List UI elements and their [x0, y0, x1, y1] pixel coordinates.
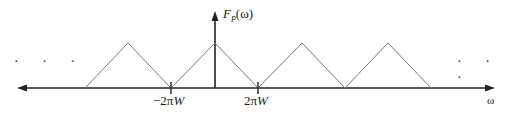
ellipsis-left: · · ·	[14, 54, 85, 70]
tick-label-var: W	[173, 93, 184, 108]
left-arrowhead-icon	[17, 85, 27, 92]
function-argument: (ω)	[236, 6, 253, 21]
tick-label-var: W	[257, 93, 268, 108]
tick-label-prefix: −2π	[153, 93, 173, 108]
up-arrowhead-icon	[212, 11, 219, 21]
tick-label-minus-2piW: −2πW	[153, 93, 184, 109]
triangle-replicas	[85, 43, 431, 88]
triangle-replica	[258, 43, 345, 88]
triangle-replica	[345, 43, 431, 88]
ellipsis-right: · · ·	[457, 54, 510, 86]
spectrum-diagram: FP(ω) −2πW 2πW ω · · · · · ·	[0, 0, 510, 117]
triangle-replica	[85, 43, 171, 88]
function-name: F	[223, 6, 231, 21]
omega-axis-label: ω	[487, 94, 494, 106]
tick-label-prefix: 2π	[244, 93, 257, 108]
function-label: FP(ω)	[223, 6, 253, 24]
tick-label-2piW: 2πW	[244, 93, 268, 109]
